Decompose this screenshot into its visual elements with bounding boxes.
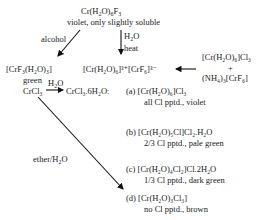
right-reactant-plus: + bbox=[228, 63, 233, 73]
isomer-b-note: 2/3 Cl pptd., pale green bbox=[144, 138, 224, 148]
h2o-top-label: H2O bbox=[48, 78, 63, 91]
isomer-d-label: (d) bbox=[126, 193, 136, 203]
isomer-d-note: no Cl pptd., brown bbox=[144, 204, 208, 214]
top-compound-description: violet, only slightly soluble bbox=[67, 17, 160, 27]
isomer-b: (b) [Cr(H₂O)₅Cl]Cl₂.H₂O bbox=[126, 127, 212, 137]
isomer-d: (d) [Cr(H₂O)₃Cl₃] bbox=[126, 193, 187, 203]
isomer-c-label: (c) bbox=[126, 164, 135, 174]
isomer-a-label: (a) bbox=[126, 86, 135, 96]
isomer-a-note: all Cl pptd., violet bbox=[144, 97, 206, 107]
ether-label: ether/H2O bbox=[33, 154, 68, 167]
isomer-b-formula: [Cr(H₂O)₅Cl]Cl₂.H₂O bbox=[138, 127, 212, 137]
isomer-a: (a) [Cr(H₂O)₆]Cl₃ bbox=[126, 86, 187, 96]
isomer-c: (c) [Cr(H₂O)₄Cl₂]Cl.2H₂O bbox=[126, 164, 216, 174]
right-reactant-1: [Cr(H₂O)₆]Cl₃ bbox=[202, 52, 251, 62]
isomer-d-formula: [Cr(H₂O)₃Cl₃] bbox=[138, 193, 187, 203]
crcl3-product: CrCl₃.6H₂O: bbox=[66, 86, 109, 96]
left-product-color: green bbox=[23, 75, 42, 85]
right-reactant-2: (NH₄)₃[CrF₆] bbox=[202, 73, 248, 83]
isomer-c-formula: [Cr(H₂O)₄Cl₂]Cl.2H₂O bbox=[138, 164, 217, 174]
alcohol-label: alcohol bbox=[41, 34, 66, 44]
middle-product-formula: [Cr(H₂O)₆]³⁺[CrF₆]³⁻ bbox=[83, 64, 157, 74]
heat-label: heat bbox=[124, 43, 138, 53]
isomer-b-label: (b) bbox=[126, 127, 136, 137]
isomer-c-note: 1/3 Cl pptd., dark green bbox=[144, 175, 225, 185]
left-product-formula: [CrF₃(H₂O)₃] bbox=[6, 64, 52, 74]
isomer-a-formula: [Cr(H₂O)₆]Cl₃ bbox=[138, 86, 187, 96]
crcl3-reactant: CrCl₃ bbox=[23, 86, 43, 96]
